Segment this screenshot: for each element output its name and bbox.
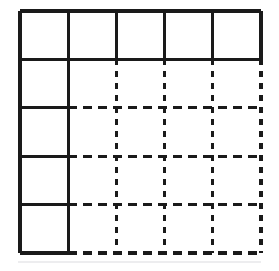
grid-diagram [0, 0, 279, 271]
grid-line-layer [20, 11, 261, 253]
figure-canvas [0, 0, 279, 271]
scan-artifact-line [18, 261, 261, 263]
